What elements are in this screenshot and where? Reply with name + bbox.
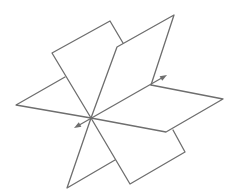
upright-plane-edge bbox=[67, 118, 115, 188]
intersecting-planes-diagram bbox=[0, 0, 237, 196]
intersection-line-arrow bbox=[74, 75, 167, 128]
horizontal-plane bbox=[16, 77, 223, 132]
intersection-line bbox=[79, 78, 162, 125]
horizontal-plane-edge bbox=[91, 85, 223, 132]
horizontal-plane-edge bbox=[16, 77, 91, 118]
arrowhead-up-right-icon bbox=[160, 75, 167, 81]
upright-plane-edge bbox=[91, 15, 174, 118]
steep-plane-edge bbox=[52, 21, 123, 118]
arrowhead-down-left-icon bbox=[74, 122, 81, 128]
steep-plane-edge bbox=[91, 118, 185, 184]
